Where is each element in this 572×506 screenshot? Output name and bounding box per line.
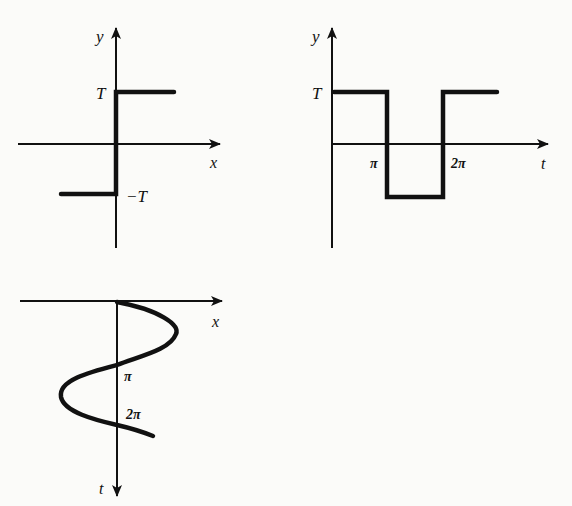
x-axis-label: x	[209, 154, 217, 171]
step-function-diagram: y x T −T	[18, 27, 220, 248]
square-wave-diagram: y t T π 2π	[310, 27, 548, 248]
t-axis-label: t	[99, 480, 104, 497]
lower-level-label: −T	[126, 187, 148, 206]
y-axis-label: y	[310, 27, 320, 46]
t-axis-label: t	[541, 155, 546, 172]
upper-level-label: T	[96, 84, 107, 103]
sine-curve	[61, 302, 177, 436]
sine-trajectory-diagram: x t π 2π	[20, 301, 222, 497]
x-axis-label: x	[211, 313, 219, 330]
figure: y x T −T y t T π 2π x t π 2π	[0, 0, 572, 506]
upper-level-label: T	[312, 84, 323, 103]
tick-pi: π	[124, 369, 132, 384]
tick-pi: π	[370, 156, 378, 171]
tick-2pi: 2π	[450, 156, 466, 171]
tick-2pi: 2π	[125, 407, 141, 422]
y-axis-label: y	[94, 27, 104, 46]
